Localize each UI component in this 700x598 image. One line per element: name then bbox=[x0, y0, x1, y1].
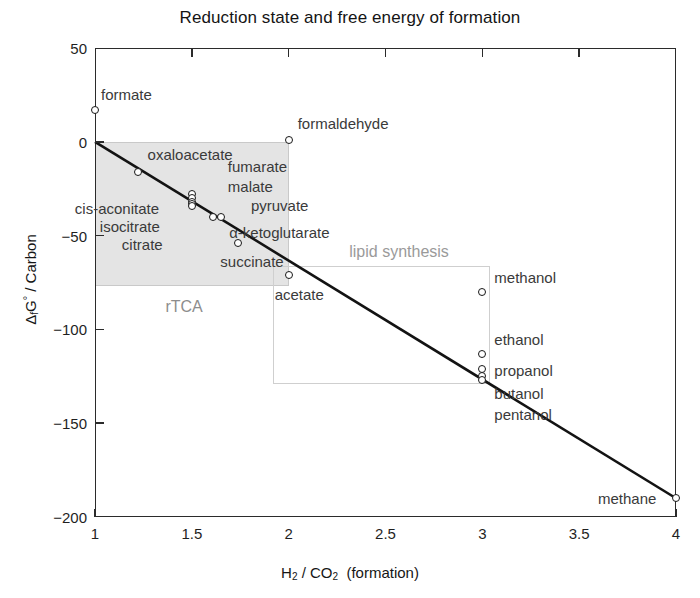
x-tick-2.5 bbox=[385, 48, 387, 57]
page-title: Reduction state and free energy of forma… bbox=[0, 8, 700, 28]
point-label-formaldehyde: formaldehyde bbox=[298, 116, 389, 131]
data-point-α-ketoglutarate bbox=[209, 213, 217, 221]
chart-figure: Reduction state and free energy of forma… bbox=[0, 0, 700, 598]
x-ticklabel-1: 1 bbox=[91, 525, 99, 542]
data-point-citrate bbox=[188, 202, 196, 210]
data-point-oxaloacetate bbox=[134, 168, 142, 176]
region-label-lipid-synthesis: lipid synthesis bbox=[349, 243, 449, 261]
point-label-acetate: acetate bbox=[275, 287, 324, 302]
data-point-acetate bbox=[285, 271, 293, 279]
data-point-formaldehyde bbox=[285, 136, 293, 144]
x-tick-3.5 bbox=[578, 48, 580, 57]
x-axis-title: H2 / CO2 (formation) bbox=[0, 564, 700, 582]
x-tick-4 bbox=[675, 509, 677, 517]
point-label-malate: malate bbox=[228, 179, 273, 194]
data-point-ethanol bbox=[478, 350, 486, 358]
y-ticklabel--50: −50 bbox=[33, 227, 87, 244]
y-ticklabel--150: −150 bbox=[33, 415, 87, 432]
data-point-methane bbox=[672, 494, 680, 502]
data-point-formate bbox=[91, 106, 99, 114]
x-ticklabel-2.5: 2.5 bbox=[375, 525, 396, 542]
x-tick-2 bbox=[288, 48, 290, 57]
point-label-fumarate: fumarate bbox=[228, 159, 287, 174]
x-tick-3 bbox=[482, 48, 484, 57]
point-label-isocitrate: isocitrate bbox=[100, 219, 160, 234]
point-label-formate: formate bbox=[101, 87, 152, 102]
y-ticklabel--200: −200 bbox=[33, 509, 87, 526]
point-label-succinate: succinate bbox=[220, 254, 283, 269]
x-ticklabel-3: 3 bbox=[478, 525, 486, 542]
y-tick-0 bbox=[95, 141, 104, 143]
point-label-cis-aconitate: cis-aconitate bbox=[75, 201, 159, 216]
data-point-methanol bbox=[478, 288, 486, 296]
y-ticklabel--100: −100 bbox=[33, 321, 87, 338]
region-label-rTCA: rTCA bbox=[165, 298, 202, 316]
point-label-citrate: citrate bbox=[122, 237, 163, 252]
y-tick--100 bbox=[95, 329, 104, 331]
y-ticklabel-0: 0 bbox=[33, 133, 87, 150]
x-tick-1.5 bbox=[191, 48, 193, 57]
point-label-α-ketoglutarate: α-ketoglutarate bbox=[229, 225, 329, 240]
data-point-succinate bbox=[234, 239, 242, 247]
x-ticklabel-4: 4 bbox=[672, 525, 680, 542]
point-label-methane: methane bbox=[598, 491, 656, 506]
x-ticklabel-1.5: 1.5 bbox=[181, 525, 202, 542]
point-label-propanol: propanol bbox=[494, 363, 552, 378]
point-label-pentanol: pentanol bbox=[494, 407, 552, 422]
x-tick-1 bbox=[94, 509, 96, 517]
x-ticklabel-2: 2 bbox=[284, 525, 292, 542]
point-label-pyruvate: pyruvate bbox=[251, 198, 309, 213]
point-label-ethanol: ethanol bbox=[494, 332, 543, 347]
y-tick--150 bbox=[95, 422, 104, 424]
y-tick--50 bbox=[95, 235, 104, 237]
point-label-methanol: methanol bbox=[494, 270, 556, 285]
point-label-butanol: butanol bbox=[494, 386, 543, 401]
y-ticklabel-50: 50 bbox=[33, 40, 87, 57]
y-axis-title: ΔfG° / Carbon bbox=[21, 195, 40, 365]
data-point-pentanol bbox=[478, 376, 486, 384]
point-label-oxaloacetate: oxaloacetate bbox=[148, 147, 233, 162]
data-point-pyruvate bbox=[217, 213, 225, 221]
x-ticklabel-3.5: 3.5 bbox=[569, 525, 590, 542]
